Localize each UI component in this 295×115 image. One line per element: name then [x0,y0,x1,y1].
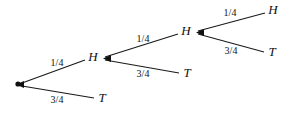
node-label-t1: T [98,90,106,105]
edge-label-h1-to-h2: 1/4 [137,33,150,44]
tree-canvas: H T H T H T 1/4 3/4 1/4 3/4 1/4 3/4 [0,0,295,115]
node-label-h1: H [87,49,98,64]
node-label-h3: H [267,2,278,17]
edge-probability-labels: 1/4 3/4 1/4 3/4 1/4 3/4 [51,7,238,105]
edge-label-h2-to-t3: 3/4 [225,45,238,56]
node-label-h2: H [180,23,191,38]
edge-label-root-to-h1: 1/4 [51,57,64,68]
edge-label-root-to-t1: 3/4 [51,94,64,105]
node-label-t3: T [268,44,276,59]
root-node [15,81,20,86]
probability-tree-diagram: H T H T H T 1/4 3/4 1/4 3/4 1/4 3/4 [0,0,295,115]
edge-label-h2-to-h3: 1/4 [224,7,237,18]
arrowheads [16,29,204,88]
edge-label-h1-to-t2: 3/4 [137,68,150,79]
node-label-t2: T [183,65,191,80]
